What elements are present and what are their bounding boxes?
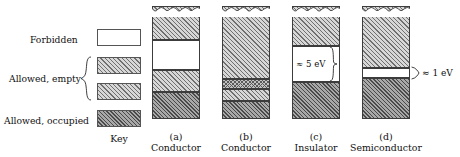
torn-top-edge-icon bbox=[222, 5, 270, 17]
band-column-d: (d)Semiconductor≈ 1 eV bbox=[362, 0, 410, 157]
band-cross bbox=[222, 79, 270, 89]
legend-swatch-allowed-empty-upper bbox=[97, 57, 141, 74]
legend-label-allowed-occupied: Allowed, occupied bbox=[4, 116, 89, 125]
column-tag: (d) bbox=[346, 131, 426, 142]
band-gap-brace-icon bbox=[329, 46, 338, 82]
band-gap-brace-icon bbox=[411, 66, 420, 80]
band-empty bbox=[222, 89, 270, 101]
column-edge-left bbox=[292, 6, 293, 119]
column-edge-left bbox=[152, 6, 153, 119]
column-tag: (a) bbox=[136, 131, 216, 142]
legend-brace-icon bbox=[80, 56, 92, 101]
band-forbidden bbox=[152, 40, 200, 70]
column-name: Conductor bbox=[206, 142, 286, 153]
torn-top-edge-icon bbox=[362, 5, 410, 17]
band-gap-label: ≈ 1 eV bbox=[422, 68, 453, 78]
band-gap-label: ≈ 5 eV bbox=[296, 59, 325, 69]
column-caption: (d)Semiconductor bbox=[346, 131, 426, 153]
band-occupied bbox=[362, 78, 410, 119]
band-occupied bbox=[222, 101, 270, 119]
band-column-a: (a)Conductor bbox=[152, 0, 200, 157]
column-name: Semiconductor bbox=[346, 142, 426, 153]
column-caption: (c)Insulator bbox=[276, 131, 356, 153]
column-caption: (a)Conductor bbox=[136, 131, 216, 153]
column-edge-right bbox=[269, 6, 270, 119]
legend-swatch-allowed-empty-lower bbox=[97, 83, 141, 100]
column-tag: (c) bbox=[276, 131, 356, 142]
key-legend: Forbidden Allowed, empty Allowed, occupi… bbox=[0, 0, 145, 157]
column-edge-right bbox=[339, 6, 340, 119]
column-caption: (b)Conductor bbox=[206, 131, 286, 153]
column-name: Insulator bbox=[276, 142, 356, 153]
torn-top-edge-icon bbox=[292, 5, 340, 17]
key-title: Key bbox=[97, 133, 141, 144]
band-column-b: (b)Conductor bbox=[222, 0, 270, 157]
torn-top-edge-icon bbox=[152, 5, 200, 17]
column-tag: (b) bbox=[206, 131, 286, 142]
band-occupied bbox=[292, 82, 340, 119]
band-column-c: (c)Insulator≈ 5 eV bbox=[292, 0, 340, 157]
legend-swatch-forbidden bbox=[97, 29, 141, 46]
band-empty bbox=[152, 70, 200, 92]
legend-label-allowed-empty: Allowed, empty bbox=[9, 74, 81, 83]
band-forbidden bbox=[362, 68, 410, 78]
legend-swatch-allowed-occupied bbox=[97, 110, 141, 127]
column-edge-left bbox=[222, 6, 223, 119]
column-edge-right bbox=[199, 6, 200, 119]
column-name: Conductor bbox=[136, 142, 216, 153]
column-edge-left bbox=[362, 6, 363, 119]
column-edge-right bbox=[409, 6, 410, 119]
legend-label-forbidden: Forbidden bbox=[30, 35, 78, 44]
band-occupied bbox=[152, 92, 200, 119]
